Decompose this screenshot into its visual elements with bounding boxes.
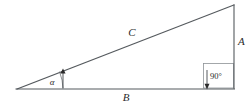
label-hypotenuse-c: C <box>128 26 136 38</box>
label-horizontal-side-b: B <box>123 91 130 103</box>
label-acute-angle-alpha: α <box>50 77 55 87</box>
triangle-diagram-canvas: C A B α 90° <box>0 0 247 104</box>
label-right-angle-90: 90° <box>210 71 222 81</box>
acute-angle-arc <box>60 72 64 89</box>
label-vertical-side-a: A <box>237 35 245 47</box>
geometry-diagram: C A B α 90° <box>0 0 247 104</box>
